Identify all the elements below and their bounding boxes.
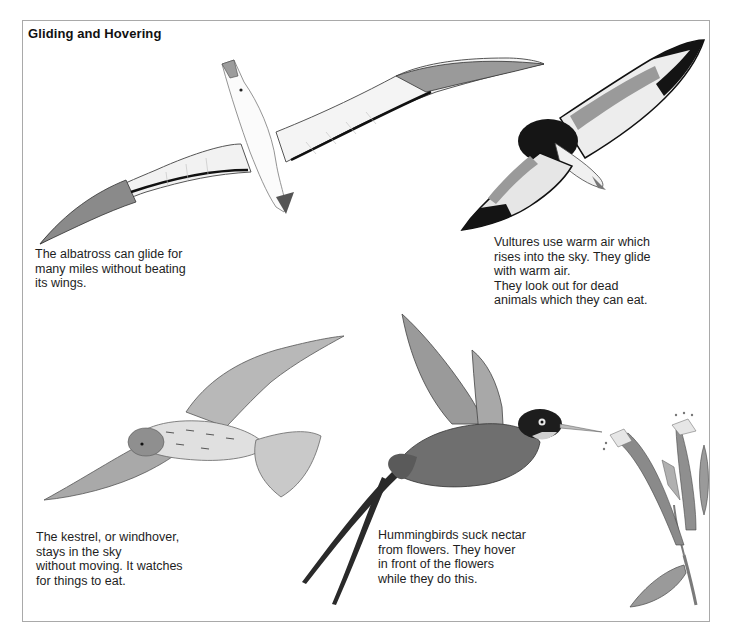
vulture-illustration (460, 38, 710, 233)
hummingbird-caption: Hummingbirds suck nectar from flowers. T… (378, 528, 526, 586)
kestrel-caption: The kestrel, or windhover, stays in the … (36, 530, 183, 588)
page-title: Gliding and Hovering (28, 26, 161, 41)
flower-illustration (596, 405, 716, 610)
albatross-caption: The albatross can glide for many miles w… (35, 247, 186, 291)
vulture-caption: Vultures use warm air which rises into t… (494, 235, 651, 308)
